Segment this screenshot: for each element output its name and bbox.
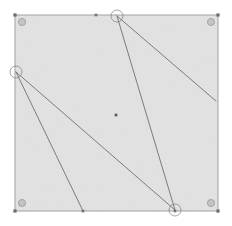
geometry-figure-svg [0, 0, 232, 226]
geometry-figure-canvas [0, 0, 232, 226]
corner-bottom-right [216, 209, 219, 212]
corner-top-right [216, 13, 219, 16]
center-dot [115, 114, 118, 117]
corner-top-left [13, 13, 16, 16]
paper-grain-overlay [15, 15, 218, 211]
corner-bottom-left [13, 209, 16, 212]
circle-top-right [207, 18, 214, 25]
bottom-right-edge-point [174, 210, 177, 213]
bottom-edge-point [82, 210, 85, 213]
circle-top-left [18, 18, 25, 25]
circle-bottom-left [18, 199, 25, 206]
circle-bottom-right [207, 199, 214, 206]
top-edge-point [95, 14, 98, 17]
